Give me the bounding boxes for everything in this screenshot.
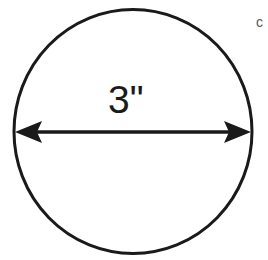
diagram-canvas	[0, 0, 268, 260]
diameter-label: 3"	[108, 80, 158, 120]
corner-mark: c	[256, 14, 263, 30]
